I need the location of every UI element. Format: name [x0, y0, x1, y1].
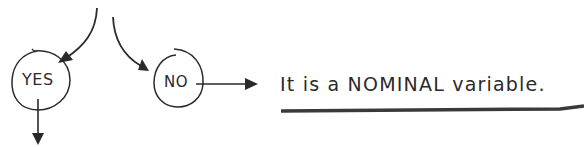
yes-node-label: YES: [22, 70, 54, 89]
branch-arrow-to-yes: [66, 8, 97, 58]
conclusion-underline: [281, 106, 584, 111]
no-node-label: NO: [164, 73, 188, 91]
arrowhead-conclusion-icon: [245, 78, 258, 90]
branch-arrow-to-no: [113, 17, 141, 66]
arrowhead-yes-icon: [58, 51, 73, 63]
conclusion-text: It is a NOMINAL variable.: [280, 73, 546, 95]
arrowhead-down-icon: [32, 133, 44, 145]
